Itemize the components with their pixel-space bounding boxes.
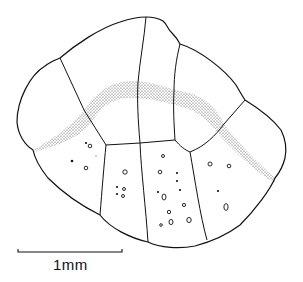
- scale-bar-label: 1mm: [53, 256, 88, 273]
- stipple-band: [33, 81, 275, 183]
- pores-filled: [71, 142, 219, 195]
- specimen-drawing: [0, 0, 303, 282]
- outer-outline: [17, 17, 286, 248]
- scale-bar: [18, 249, 122, 252]
- pores-open: [84, 144, 231, 226]
